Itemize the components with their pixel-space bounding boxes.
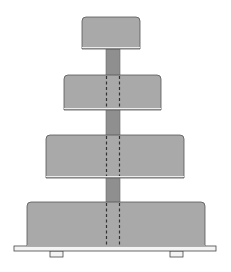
cake-tier-4 — [27, 202, 205, 247]
cake-tier-1 — [82, 17, 140, 49]
stand-foot-1 — [50, 251, 63, 257]
base-plate — [14, 246, 216, 251]
stand-foot-2 — [170, 251, 183, 257]
cake-tier-2 — [64, 75, 161, 110]
cake-tier-3 — [46, 135, 184, 178]
tiered-cake-diagram — [0, 0, 231, 272]
